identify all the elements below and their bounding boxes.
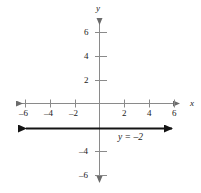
x-tick-label-minus-4: –4 [44, 109, 53, 118]
x-tick-label-2: 2 [122, 109, 127, 118]
y-tick-label-4: 4 [84, 52, 89, 61]
y-tick-label-2: 2 [84, 76, 89, 85]
x-tick-label-minus-2: –2 [69, 109, 78, 118]
line-equation-label: y = –2 [118, 133, 143, 143]
x-tick-label-6: 6 [172, 109, 177, 118]
y-tick-label-minus-4: –4 [79, 147, 88, 156]
x-tick-label-4: 4 [147, 109, 152, 118]
y-tick-label-minus-6: –6 [79, 171, 88, 180]
coordinate-plane-svg [0, 0, 201, 193]
y-tick-label-6: 6 [84, 28, 89, 37]
x-axis-label: x [190, 99, 194, 108]
y-axis-label: y [96, 4, 100, 13]
graph-figure: x y –6 –4 –2 2 4 6 6 4 2 –4 –6 y = –2 [0, 0, 201, 193]
x-tick-label-minus-6: –6 [19, 109, 28, 118]
